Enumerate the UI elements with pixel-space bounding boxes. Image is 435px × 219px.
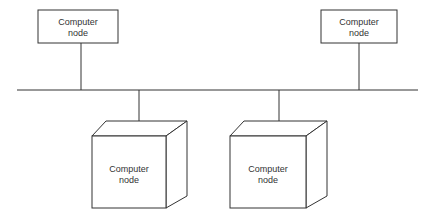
node-label: node: [258, 175, 278, 185]
node-label: Computer: [339, 17, 379, 27]
node-label: Computer: [109, 164, 149, 174]
node-label: Computer: [248, 164, 288, 174]
bus-network-diagram: Computer node Computer node Computer nod…: [0, 0, 435, 219]
node-label: node: [349, 28, 369, 38]
node-label: node: [68, 28, 88, 38]
node-bottom-left-cube: [92, 90, 187, 208]
node-label: Computer: [58, 17, 98, 27]
node-label: node: [119, 175, 139, 185]
node-bottom-right-cube: [230, 90, 327, 208]
